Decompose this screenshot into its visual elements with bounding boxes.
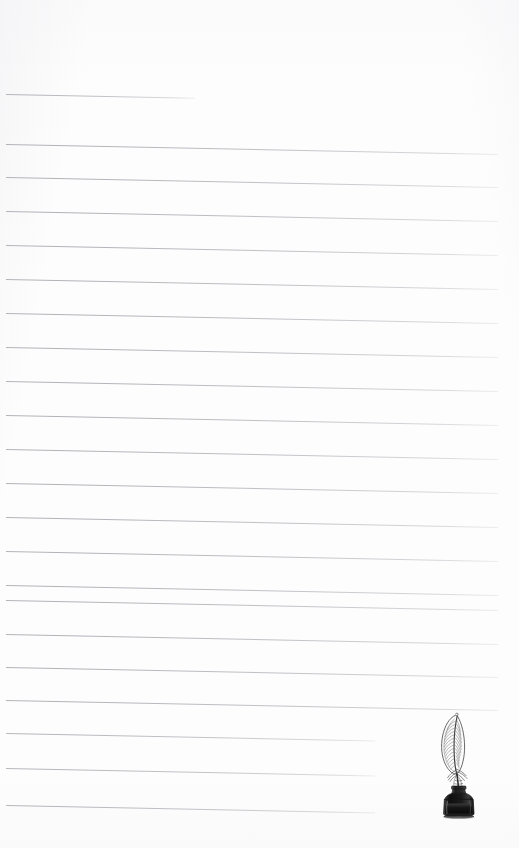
ruled-line (6, 245, 498, 256)
ruled-line (6, 211, 498, 222)
ruled-line (6, 381, 498, 392)
ruled-line (6, 517, 498, 528)
feather-group (442, 713, 467, 781)
ruled-line (6, 600, 498, 611)
ruled-line (6, 585, 498, 596)
notepaper-page (0, 0, 519, 848)
ruled-line (6, 805, 375, 813)
ruled-line (6, 483, 498, 494)
ruled-line (6, 94, 195, 99)
quill-icon (424, 710, 494, 820)
ruled-line (6, 768, 375, 776)
ruled-line (6, 449, 498, 460)
quill-pen-in-inkwell-illustration (424, 710, 494, 820)
ruled-line (6, 279, 498, 290)
ruled-line (6, 313, 498, 324)
ruled-line (6, 551, 498, 562)
ruled-line (6, 733, 375, 741)
ruled-line (6, 634, 498, 645)
ruled-line (6, 415, 498, 426)
ruled-line (6, 347, 498, 358)
inkwell-bottle (442, 786, 475, 819)
ruled-line (6, 667, 498, 678)
ruled-line (6, 177, 498, 188)
ruled-line (6, 144, 498, 155)
